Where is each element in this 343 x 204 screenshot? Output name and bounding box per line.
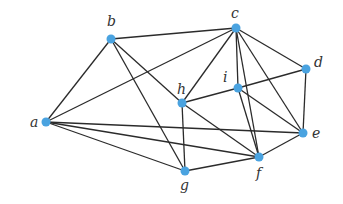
node-label-c: c [231, 5, 239, 21]
node-d [302, 65, 311, 74]
edge-c-e [236, 28, 303, 133]
node-e [299, 129, 308, 138]
node-g [181, 167, 190, 176]
node-f [255, 153, 264, 162]
edge-c-h [182, 28, 236, 103]
node-label-h: h [177, 81, 186, 97]
edge-i-e [238, 88, 303, 133]
edge-h-g [182, 103, 185, 171]
edge-e-f [259, 133, 303, 157]
nodes-layer [42, 24, 311, 176]
node-c [232, 24, 241, 33]
edge-a-f [46, 122, 259, 157]
node-label-e: e [312, 125, 320, 141]
node-label-g: g [180, 177, 189, 193]
node-h [178, 99, 187, 108]
edges-layer [46, 28, 306, 171]
graph-diagram: abcdefghi [0, 0, 343, 204]
node-label-i: i [223, 69, 227, 85]
edge-a-g [46, 122, 185, 171]
edge-a-e [46, 122, 303, 133]
edge-a-b [46, 39, 111, 122]
edge-g-f [185, 157, 259, 171]
node-label-a: a [30, 114, 38, 130]
node-b [107, 35, 116, 44]
edge-b-h [111, 39, 182, 103]
edge-d-e [303, 69, 306, 133]
edge-a-c [46, 28, 236, 122]
edge-c-d [236, 28, 306, 69]
node-label-f: f [255, 165, 264, 181]
node-i [234, 84, 243, 93]
node-label-b: b [107, 13, 116, 29]
node-a [42, 118, 51, 127]
node-label-d: d [314, 54, 323, 70]
